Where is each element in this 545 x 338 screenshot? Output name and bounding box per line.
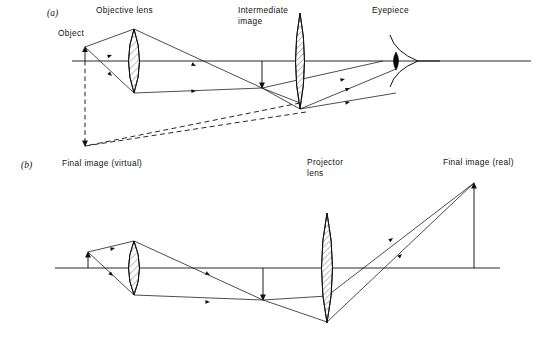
objective-lens-label: Objective lens: [96, 5, 153, 15]
final-image-virtual-label: Final image (virtual): [62, 158, 142, 168]
objective-lens-a-hatch: [129, 29, 140, 93]
ray-a-upper-refracted: [134, 29, 262, 88]
intermediate-image-arrow-a: [259, 61, 265, 89]
ray-arrowhead-a1: [107, 53, 113, 58]
ray-b-lower-refracted: [134, 295, 263, 300]
ray-a-lower-incident: [85, 47, 134, 93]
panel-b: (b) Projector lens Final image (real): [21, 157, 514, 323]
ray-arrowhead-a5: [345, 86, 351, 91]
ray-a-eyepiece-emergent-2: [300, 93, 396, 109]
final-image-virtual-arrow-a: [82, 61, 88, 147]
final-image-real-label: Final image (real): [443, 157, 514, 167]
ray-b-projector-incident-2: [263, 296, 327, 300]
ray-arrowhead-a7: [340, 77, 345, 82]
panel-label-a: (a): [47, 8, 58, 19]
ray-arrowhead-a3: [191, 62, 197, 67]
ray-arrowhead-b4: [205, 300, 210, 304]
projector-lens-b-hatch: [322, 213, 333, 323]
object-arrow-a: [82, 46, 88, 61]
final-image-real-arrow-b: [471, 182, 477, 268]
projector-lens-label-line1: Projector: [307, 157, 343, 167]
object-label: Object: [58, 28, 84, 38]
ray-b-upper-refracted: [134, 241, 263, 300]
optical-ray-diagram-figure: (a) Object Objective lens Intermediate i…: [0, 0, 545, 338]
ray-arrowhead-b6: [388, 236, 394, 242]
ray-arrowhead-b5: [397, 253, 403, 259]
intermediate-image-label-line2: image: [238, 16, 262, 26]
ray-b-projector-emergent-1: [327, 183, 474, 322]
ray-a-lower-refracted: [134, 88, 262, 93]
ray-a-eyepiece-chief: [262, 61, 383, 88]
ray-b-projector-emergent-2: [327, 183, 474, 296]
ray-a-eyepiece-incident-2: [262, 88, 300, 109]
eyepiece-label: Eyepiece: [372, 5, 409, 15]
projector-lens-label-line2: lens: [307, 168, 324, 178]
eyepiece-lens-a-hatch: [296, 13, 305, 109]
intermediate-image-arrow-b: [260, 268, 266, 301]
ray-a-eyepiece-incident-1: [262, 88, 300, 103]
ray-arrowhead-a4: [191, 89, 196, 93]
ray-b-projector-incident-1: [263, 300, 327, 322]
ray-a-upper-incident: [85, 29, 134, 47]
virtual-ray-a-1: [85, 103, 300, 146]
intermediate-image-label-line1: Intermediate: [238, 5, 288, 15]
panel-a: (a) Object Objective lens Intermediate i…: [47, 5, 531, 168]
panel-label-b: (b): [21, 160, 32, 171]
diagram-canvas: (a) Object Objective lens Intermediate i…: [0, 0, 545, 338]
objective-lens-b-hatch: [129, 241, 140, 295]
virtual-ray-a-2: [85, 112, 306, 146]
